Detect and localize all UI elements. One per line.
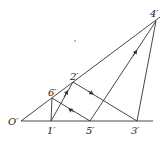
- label-O: O′: [8, 116, 19, 127]
- segment-1-6: [51, 98, 52, 121]
- arrow-1-2: [64, 92, 67, 97]
- label-5: 5′: [86, 125, 95, 136]
- arrow-2-3: [88, 91, 92, 93]
- label-3: 3′: [131, 125, 140, 136]
- dot-mark: [74, 40, 76, 42]
- label-2: 2′: [69, 71, 79, 82]
- slanted-line: [21, 17, 160, 121]
- label-4: 4′: [149, 8, 159, 19]
- arrow-5-4: [133, 52, 136, 57]
- segment-2-3: [73, 82, 137, 121]
- label-6: 6′: [48, 87, 57, 98]
- label-1: 1′: [47, 125, 56, 136]
- ray-reflection-diagram: O′ 1′ 5′ 3′ 6′ 2′ 4′: [0, 0, 166, 142]
